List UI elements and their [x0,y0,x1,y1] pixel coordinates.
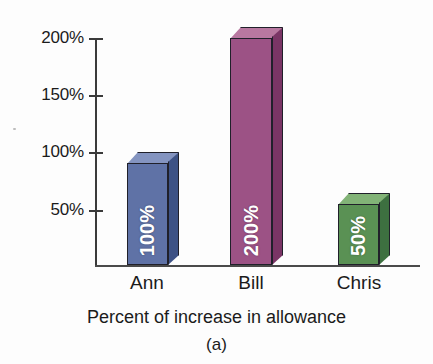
x-category-label-ann: Ann [107,272,187,294]
y-tick-50 [89,210,103,212]
bar-ann-value-label: 100% [136,205,159,256]
bar-chart: 200% 150% 100% 50% 100% 200% [0,0,433,364]
chart-caption-main: Percent of increase in allowance [0,307,433,328]
y-tick-label-150: 150% [12,85,84,105]
x-category-label-chris: Chris [316,272,402,294]
x-axis-baseline [95,265,420,267]
bar-chris-front-face: 50% [338,204,379,265]
y-tick-100 [89,152,103,154]
y-tick-label-100-wrap: 100% [6,142,84,162]
bar-bill-side-face [272,27,283,265]
bar-bill-front-face: 200% [230,38,272,265]
bar-bill-label-holder: 200% [231,39,271,264]
y-tick-label-200: 200% [12,28,84,48]
y-tick-200 [89,38,103,40]
bar-chris-side-face [379,193,390,265]
y-tick-label-50-wrap: 50% [6,200,84,220]
y-tick-150 [89,95,103,97]
bar-bill: 200% [230,27,272,265]
bar-chris-label-holder: 50% [339,205,378,264]
y-tick-label-50: 50% [12,200,84,220]
bar-ann-side-face [168,152,179,265]
bar-ann-front-face: 100% [127,163,168,265]
scan-artifact-speck [13,128,16,130]
bar-chris-value-label: 50% [347,216,370,256]
chart-caption-sub: (a) [0,335,433,355]
bar-ann: 100% [127,152,168,265]
y-tick-label-100: 100% [12,142,84,162]
bar-bill-value-label: 200% [240,205,263,256]
y-tick-label-150-wrap: 150% [6,85,84,105]
bar-chris: 50% [338,193,379,265]
bar-ann-label-holder: 100% [128,164,167,264]
x-category-label-bill: Bill [211,272,291,294]
y-tick-label-200-wrap: 200% [6,28,84,48]
